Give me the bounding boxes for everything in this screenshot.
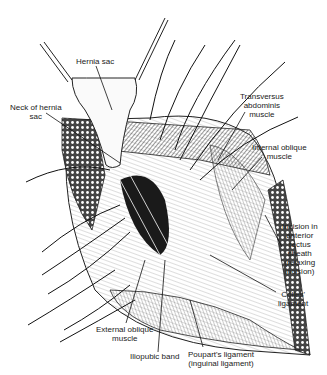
label-line: abdominis	[240, 101, 284, 110]
label-line: sheath	[282, 249, 318, 258]
label-line: muscle	[252, 152, 307, 161]
label-line: ligament	[278, 299, 308, 308]
label-line: External oblique	[96, 325, 153, 334]
label-line: sac	[10, 112, 62, 121]
label-line: incision)	[282, 267, 318, 276]
label-external-oblique: External oblique muscle	[96, 325, 153, 343]
label-line: muscle	[96, 334, 153, 343]
label-line: Incision in	[282, 222, 318, 231]
label-line: muscle	[240, 110, 284, 119]
label-line: Colles'	[278, 290, 308, 299]
label-iliopubic-band: Iliopubic band	[130, 352, 179, 361]
label-colles-ligament: Colles' ligament	[278, 290, 308, 308]
label-line: Neck of hernia	[10, 103, 62, 112]
label-incision-anterior-rectus: Incision in anterior rectus sheath (rela…	[282, 222, 318, 276]
label-hernia-sac: Hernia sac	[76, 57, 114, 66]
hernia-repair-illustration	[0, 0, 327, 375]
label-line: (inguinal ligament)	[188, 359, 254, 368]
label-internal-oblique: Internal oblique muscle	[252, 143, 307, 161]
label-line: (relaxing	[282, 258, 318, 267]
label-line: rectus	[282, 240, 318, 249]
label-transversus-abdominis: Transversus abdominis muscle	[240, 92, 284, 119]
label-neck-of-hernia-sac: Neck of hernia sac	[10, 103, 62, 121]
label-pouparts-ligament: Poupart's ligament (inguinal ligament)	[188, 350, 254, 368]
label-line: anterior	[282, 231, 318, 240]
label-line: Poupart's ligament	[188, 350, 254, 359]
label-line: Internal oblique	[252, 143, 307, 152]
label-line: Transversus	[240, 92, 284, 101]
